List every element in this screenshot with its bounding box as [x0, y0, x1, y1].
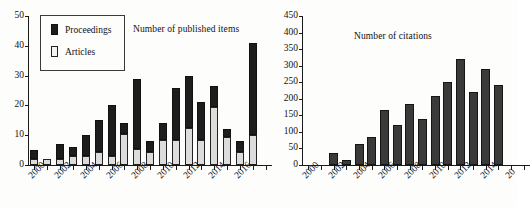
- bar: [380, 110, 389, 165]
- bar-stacked: [95, 120, 103, 165]
- y-tick: [299, 99, 303, 100]
- bar-segment-proceedings: [223, 129, 231, 137]
- bar: [469, 92, 478, 165]
- bar: [405, 104, 414, 165]
- bar: [367, 137, 376, 165]
- legend-label-articles: Articles: [65, 47, 95, 57]
- y-tick-label: 300: [278, 61, 298, 71]
- legend-item-proceedings: Proceedings: [51, 24, 111, 35]
- y-tick: [299, 148, 303, 149]
- y-tick-label: 100: [278, 127, 298, 137]
- y-tick: [299, 49, 303, 50]
- bar-segment-proceedings: [95, 120, 103, 151]
- bar-stacked: [120, 123, 128, 165]
- chart-title-published-items: Number of published items: [133, 24, 239, 34]
- bar: [418, 119, 427, 165]
- bar: [443, 82, 452, 165]
- bar: [431, 96, 440, 165]
- bar-stacked: [108, 105, 116, 165]
- bar-segment-articles: [197, 140, 205, 165]
- y-axis-line: [28, 16, 29, 166]
- legend-box: Proceedings Articles: [40, 15, 125, 71]
- y-tick: [299, 66, 303, 67]
- bar-stacked: [210, 86, 218, 165]
- bar-segment-articles: [185, 128, 193, 165]
- bar-segment-proceedings: [210, 86, 218, 107]
- x-tick-label: 2000: [301, 161, 321, 181]
- legend-swatch-proceedings-icon: [51, 24, 58, 35]
- y-tick-label: 10: [8, 130, 24, 140]
- bar-segment-proceedings: [146, 141, 154, 151]
- y-tick-label: 250: [278, 77, 298, 87]
- y-tick: [299, 115, 303, 116]
- y-tick-label: 30: [8, 71, 24, 81]
- bar-segment-proceedings: [185, 76, 193, 128]
- bar-segment-articles: [120, 134, 128, 165]
- chart-published-items: Number of published items 01020304050 20…: [0, 0, 272, 207]
- x-tick-label: 20: [504, 167, 517, 180]
- chart-citations: Number of citations 05010015020025030035…: [272, 0, 517, 207]
- bar-segment-articles: [249, 135, 257, 165]
- y-tick: [299, 16, 303, 17]
- bar: [481, 69, 490, 165]
- bar-stacked: [159, 123, 167, 165]
- bar-stacked: [172, 88, 180, 166]
- x-tick: [266, 166, 267, 170]
- bar-stacked: [69, 147, 77, 165]
- bar-segment-proceedings: [172, 88, 180, 140]
- legend-item-articles: Articles: [51, 46, 95, 57]
- bar: [494, 85, 503, 166]
- y-tick: [299, 165, 303, 166]
- bar-segment-proceedings: [56, 144, 64, 159]
- bar-segment-proceedings: [120, 123, 128, 133]
- bar-segment-articles: [172, 140, 180, 165]
- y-tick-label: 350: [278, 44, 298, 54]
- y-tick: [25, 165, 29, 166]
- bar-stacked: [197, 102, 205, 165]
- y-tick: [299, 82, 303, 83]
- y-tick-label: 0: [278, 160, 298, 170]
- bar-stacked: [133, 79, 141, 165]
- bar-segment-proceedings: [197, 102, 205, 139]
- bar-stacked: [223, 129, 231, 165]
- y-tick-label: 50: [8, 11, 24, 21]
- y-tick: [299, 33, 303, 34]
- bar-segment-proceedings: [108, 105, 116, 156]
- y-tick-label: 400: [278, 28, 298, 38]
- legend-label-proceedings: Proceedings: [65, 25, 111, 35]
- y-tick: [299, 132, 303, 133]
- y-tick-label: 150: [278, 110, 298, 120]
- bar: [393, 125, 402, 165]
- bar-segment-proceedings: [236, 141, 244, 151]
- bar: [456, 59, 465, 165]
- chart-title-citations: Number of citations: [354, 31, 432, 41]
- y-tick-label: 0: [8, 160, 24, 170]
- y-tick: [25, 76, 29, 77]
- y-tick-label: 450: [278, 11, 298, 21]
- y-tick-label: 40: [8, 41, 24, 51]
- bar-segment-articles: [223, 137, 231, 165]
- bar-segment-articles: [146, 152, 154, 165]
- bar-segment-proceedings: [30, 150, 38, 159]
- y-axis-line: [302, 16, 303, 166]
- y-tick-label: 20: [8, 100, 24, 110]
- bar-segment-proceedings: [82, 135, 90, 156]
- y-tick: [25, 16, 29, 17]
- y-tick: [25, 105, 29, 106]
- bar-segment-articles: [210, 107, 218, 165]
- bar-segment-proceedings: [159, 123, 167, 139]
- bar-segment-proceedings: [69, 147, 77, 156]
- bar-stacked: [249, 43, 257, 165]
- y-tick: [25, 46, 29, 47]
- legend-swatch-articles-icon: [51, 46, 58, 57]
- bar-segment-proceedings: [249, 43, 257, 135]
- x-tick: [524, 166, 525, 170]
- bar-segment-proceedings: [133, 79, 141, 149]
- y-tick-label: 200: [278, 94, 298, 104]
- bar-stacked: [185, 76, 193, 165]
- bar-stacked: [146, 141, 154, 165]
- bar-stacked: [82, 135, 90, 165]
- y-tick-label: 50: [278, 143, 298, 153]
- y-tick: [25, 135, 29, 136]
